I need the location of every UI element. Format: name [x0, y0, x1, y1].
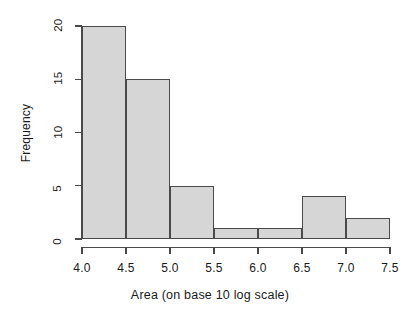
- histogram-bar: [302, 196, 346, 239]
- histogram-bar: [214, 228, 258, 239]
- x-axis-tick: [389, 247, 390, 254]
- x-axis-tick-label: 7.5: [381, 262, 398, 274]
- y-axis-tick: [75, 238, 82, 239]
- y-axis-title: Frequency: [18, 0, 34, 265]
- y-axis-tick-label: 5: [58, 188, 70, 195]
- y-axis: [74, 26, 82, 239]
- x-axis-line: [82, 247, 390, 248]
- y-axis-tick-label: 10: [58, 132, 70, 145]
- plot-area: [82, 26, 390, 239]
- x-axis-tick-label: 4.5: [117, 262, 134, 274]
- x-axis-tick-label: 4.0: [73, 262, 90, 274]
- y-axis-tick: [75, 185, 82, 186]
- histogram-bar: [170, 186, 214, 239]
- histogram-bar: [346, 218, 390, 239]
- histogram-plot: Frequency Area (on base 10 log scale) 05…: [0, 0, 420, 321]
- histogram-bar: [82, 26, 126, 239]
- x-axis-tick: [213, 247, 214, 254]
- y-axis-tick: [75, 25, 82, 26]
- x-axis-tick-label: 6.0: [249, 262, 266, 274]
- y-axis-tick-label: 15: [58, 78, 70, 91]
- x-axis-tick-label: 6.5: [293, 262, 310, 274]
- y-axis-tick-label: 0: [58, 241, 70, 248]
- x-axis-tick: [301, 247, 302, 254]
- x-axis-tick-label: 5.5: [205, 262, 222, 274]
- x-axis-tick: [125, 247, 126, 254]
- x-axis-tick: [345, 247, 346, 254]
- x-axis-tick-label: 5.0: [161, 262, 178, 274]
- x-axis-tick: [169, 247, 170, 254]
- histogram-bar: [126, 79, 170, 239]
- x-axis-title: Area (on base 10 log scale): [0, 288, 420, 302]
- y-axis-title-text: Frequency: [19, 103, 33, 162]
- y-axis-tick-label: 20: [58, 25, 70, 38]
- x-axis-tick: [81, 247, 82, 254]
- x-axis-tick-label: 7.0: [337, 262, 354, 274]
- histogram-bar: [258, 228, 302, 239]
- y-axis-tick: [75, 79, 82, 80]
- x-axis-tick: [257, 247, 258, 254]
- x-axis: [82, 247, 390, 255]
- y-axis-tick: [75, 132, 82, 133]
